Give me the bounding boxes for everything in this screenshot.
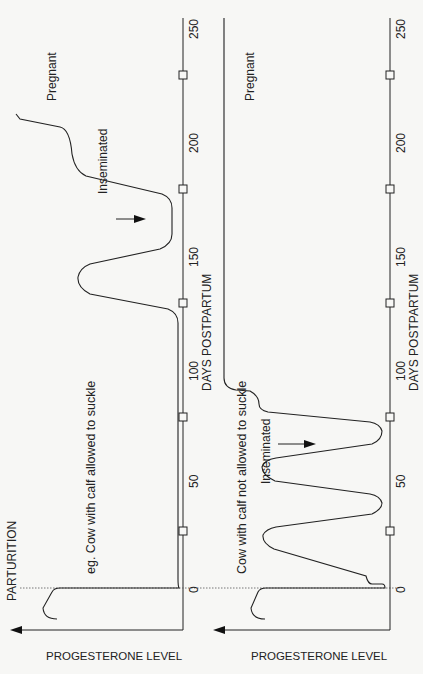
- tick-marker: [386, 185, 394, 193]
- x-tick-label: 100: [187, 361, 201, 381]
- y-axis-label: PROGESTERONE LEVEL: [46, 650, 183, 662]
- chart-caption: Cow with calf not allowed to suckle: [235, 381, 249, 574]
- tick-marker: [179, 527, 187, 535]
- x-tick-labels: 0 50 100 150 200 250: [187, 19, 201, 593]
- y-axis-label: PROGESTERONE LEVEL: [251, 650, 388, 662]
- inseminated-arrow-icon: [304, 440, 316, 448]
- x-tick-label: 250: [187, 19, 201, 39]
- tick-marker: [386, 71, 394, 79]
- pregnant-label: Pregnant: [45, 52, 59, 101]
- tick-marker: [386, 413, 394, 421]
- x-axis-label: DAYS POSTPARTUM: [200, 274, 214, 391]
- y-axis-arrow-icon: [10, 626, 22, 634]
- figure-frame: PARTURITION eg. Cow with calf allowed to…: [0, 0, 423, 674]
- parturition-label: PARTURITION: [5, 521, 19, 601]
- tick-marker: [179, 413, 187, 421]
- tick-marker: [179, 299, 187, 307]
- x-tick-label: 200: [394, 133, 408, 153]
- tick-marker: [179, 185, 187, 193]
- x-tick-label: 0: [394, 586, 408, 593]
- inseminated-arrow-icon: [134, 215, 146, 223]
- tick-marker: [386, 299, 394, 307]
- x-tick-label: 200: [187, 133, 201, 153]
- y-axis-arrow-icon: [213, 626, 225, 634]
- tick-marker: [179, 71, 187, 79]
- chart-suckled: PARTURITION eg. Cow with calf allowed to…: [5, 18, 400, 662]
- x-tick-label: 250: [394, 19, 408, 39]
- x-axis-label: DAYS POSTPARTUM: [407, 274, 421, 391]
- x-tick-label: 150: [187, 247, 201, 267]
- inseminated-label: Inseminated: [96, 129, 110, 194]
- chart-not-suckled: Cow with calf not allowed to suckle Inse…: [213, 18, 421, 662]
- pregnant-label: Pregnant: [243, 52, 257, 101]
- x-tick-label: 150: [394, 247, 408, 267]
- progesterone-figure: PARTURITION eg. Cow with calf allowed to…: [0, 0, 423, 674]
- x-tick-label: 50: [187, 474, 201, 488]
- x-tick-label: 50: [394, 474, 408, 488]
- tick-marker: [386, 527, 394, 535]
- chart-caption: eg. Cow with calf allowed to suckle: [84, 381, 98, 574]
- x-tick-labels: 0 50 100 150 200 250: [394, 19, 408, 593]
- inseminated-label: Inseminated: [259, 419, 273, 484]
- x-tick-label: 100: [394, 361, 408, 381]
- rotated-figure: PARTURITION eg. Cow with calf allowed to…: [0, 0, 423, 674]
- x-tick-label: 0: [187, 586, 201, 593]
